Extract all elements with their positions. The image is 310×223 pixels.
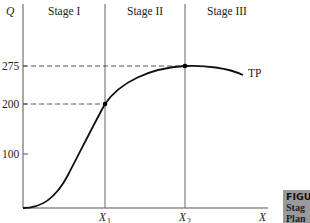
y-tick-label-100: 100 [2,148,20,160]
y-tick-label-200: 200 [2,98,20,110]
tp-curve [23,66,243,208]
x1-tick-subscript: 1 [107,217,111,223]
stage-2-label: Stage II [127,5,163,18]
caption-line-2: Plan [286,213,310,223]
x2-tick-label: X [178,211,187,223]
point-x2-275 [183,64,188,69]
y-tick-label-275: 275 [2,60,20,72]
x-axis-label: X [258,211,267,223]
stage-1-label: Stage I [48,5,80,18]
figure-caption-box: FIGU Stag Plan [283,190,310,223]
y-axis-label: Q [6,5,15,17]
figure-label: FIGU [286,191,310,202]
production-chart: Q 275 200 100 Stage I Stage II Stage III… [0,0,310,223]
stage-3-label: Stage III [207,5,247,18]
caption-line-1: Stag [286,202,310,213]
tp-curve-label: TP [248,67,261,79]
x1-tick-label: X [98,211,107,223]
x2-tick-subscript: 2 [187,217,191,223]
point-x1-200 [103,102,108,107]
